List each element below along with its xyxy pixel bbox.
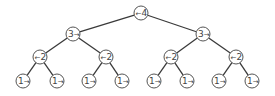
- tree-node: 1→: [212, 74, 226, 88]
- tree-node: 1→: [115, 74, 129, 88]
- arrow-right-icon: →: [155, 78, 161, 86]
- tree-edge: [44, 63, 53, 76]
- tree-edge: [27, 63, 36, 76]
- node-label: ←2: [35, 52, 47, 62]
- arrow-right-icon: →: [204, 31, 210, 39]
- tree-node: 3→: [196, 27, 210, 41]
- node-value: 2: [40, 52, 46, 62]
- node-label: 1→: [18, 76, 30, 86]
- node-label: 3→: [68, 29, 80, 39]
- node-label: 1→: [182, 76, 194, 86]
- arrow-right-icon: →: [74, 31, 80, 39]
- node-value: 2: [106, 52, 112, 62]
- tree-edge: [240, 63, 248, 75]
- tree-edge: [110, 63, 118, 75]
- node-value: 4: [141, 8, 147, 18]
- arrow-right-icon: →: [90, 78, 96, 86]
- node-label: 1→: [117, 76, 129, 86]
- tree-node: 1→: [50, 74, 64, 88]
- arrow-right-icon: →: [123, 78, 129, 86]
- tree-node: ←2: [229, 50, 243, 64]
- tree-node: 1→: [147, 74, 161, 88]
- tree-edge: [79, 38, 101, 53]
- tree-node: 1→: [180, 74, 194, 88]
- tree-node: 1→: [82, 74, 96, 88]
- node-label: 1→: [149, 76, 161, 86]
- node-label: ←4: [136, 8, 148, 18]
- tree-edge: [46, 38, 68, 53]
- tree-node: 1→: [16, 74, 30, 88]
- node-label: 1→: [84, 76, 96, 86]
- tree-node: 1→: [245, 74, 259, 88]
- tree-edge: [223, 63, 232, 76]
- tree-edge: [158, 63, 167, 76]
- tree-edge: [175, 63, 183, 75]
- tree-node: ←2: [99, 50, 113, 64]
- node-label: ←2: [231, 52, 243, 62]
- tree-edge: [93, 63, 102, 76]
- node-value: 2: [171, 52, 177, 62]
- tree-edges: [27, 15, 248, 75]
- tree-edge: [209, 38, 231, 53]
- tree-edge: [80, 15, 135, 32]
- arrow-right-icon: →: [58, 78, 64, 86]
- tree-edge: [148, 15, 197, 32]
- node-label: ←2: [166, 52, 178, 62]
- node-label: 3→: [198, 29, 210, 39]
- tree-node: ←2: [164, 50, 178, 64]
- node-label: ←2: [101, 52, 113, 62]
- arrow-right-icon: →: [253, 78, 259, 86]
- tree-node: ←2: [33, 50, 47, 64]
- node-label: 1→: [52, 76, 64, 86]
- tree-node: 3→: [66, 27, 80, 41]
- tree-edge: [177, 38, 198, 53]
- arrow-right-icon: →: [24, 78, 30, 86]
- node-value: 2: [236, 52, 242, 62]
- arrow-right-icon: →: [188, 78, 194, 86]
- node-label: 1→: [214, 76, 226, 86]
- tree-diagram: ←43→3→←2←2←2←21→1→1→1→1→1→1→1→: [0, 0, 275, 96]
- tree-node: ←4: [134, 6, 148, 20]
- node-label: 1→: [247, 76, 259, 86]
- arrow-right-icon: →: [220, 78, 226, 86]
